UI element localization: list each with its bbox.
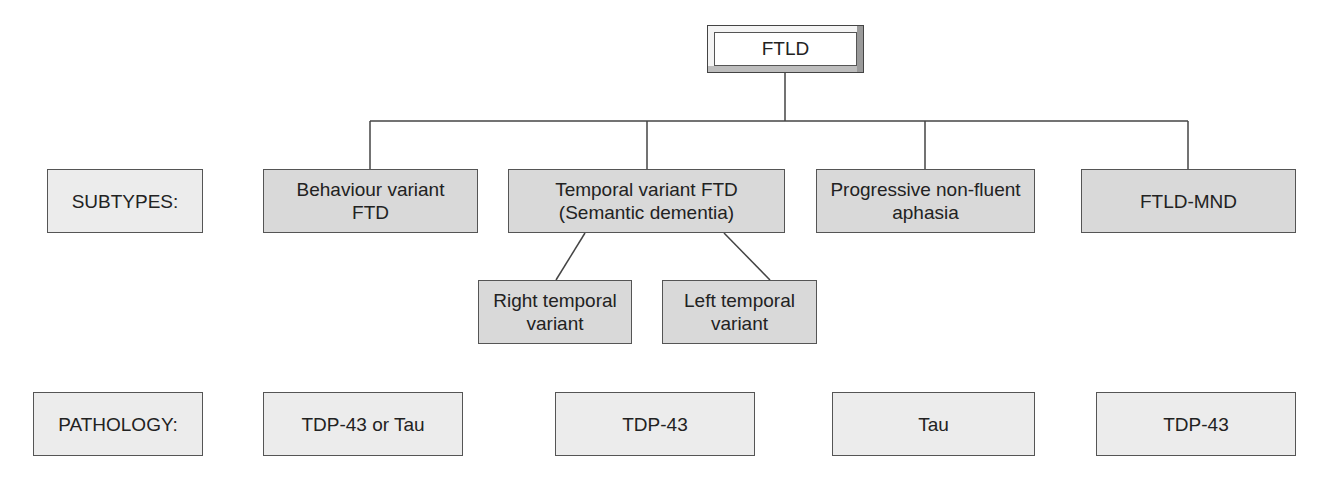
pathology-ftld-mnd: TDP-43 xyxy=(1096,392,1296,456)
bevel-right xyxy=(857,26,863,72)
root-label: FTLD xyxy=(714,32,857,66)
row-label-subtypes: SUBTYPES: xyxy=(47,169,203,233)
left-temporal-variant: Left temporal variant xyxy=(662,280,817,344)
subtype-ftld-mnd: FTLD-MND xyxy=(1081,169,1296,233)
pathology-progressive: Tau xyxy=(832,392,1035,456)
subtype-behaviour-variant: Behaviour variant FTD xyxy=(263,169,478,233)
bevel-bottom xyxy=(708,66,863,72)
pathology-behaviour: TDP-43 or Tau xyxy=(263,392,463,456)
root-node-ftld: FTLD xyxy=(707,25,864,73)
right-temporal-variant: Right temporal variant xyxy=(478,280,632,344)
row-label-pathology: PATHOLOGY: xyxy=(33,392,203,456)
subtype-progressive-nonfluent: Progressive non-fluent aphasia xyxy=(816,169,1035,233)
pathology-temporal: TDP-43 xyxy=(555,392,755,456)
subtype-temporal-variant: Temporal variant FTD (Semantic dementia) xyxy=(508,169,785,233)
